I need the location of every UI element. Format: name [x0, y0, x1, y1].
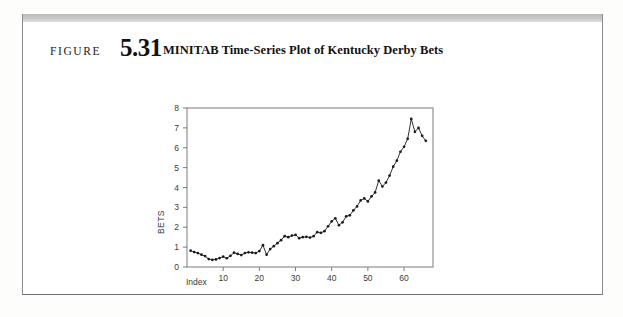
time-series-chart: BETS Index 012345678 102030405060: [23, 74, 602, 289]
svg-text:2: 2: [174, 222, 179, 232]
svg-text:0: 0: [174, 262, 179, 272]
svg-text:20: 20: [255, 273, 265, 283]
page-background: FIGURE 5.31 MINITAB Time-Series Plot of …: [0, 0, 623, 317]
svg-text:4: 4: [174, 183, 179, 193]
figure-title: MINITAB Time-Series Plot of Kentucky Der…: [163, 43, 443, 58]
plot-svg: 012345678 102030405060: [23, 74, 604, 289]
svg-text:1: 1: [174, 242, 179, 252]
figure-label: FIGURE: [50, 45, 101, 57]
svg-text:30: 30: [291, 273, 301, 283]
svg-text:7: 7: [174, 123, 179, 133]
header-band: [23, 14, 602, 22]
svg-text:3: 3: [174, 202, 179, 212]
y-axis-ticks: 012345678: [174, 103, 187, 272]
figure-header: FIGURE 5.31 MINITAB Time-Series Plot of …: [23, 36, 602, 68]
svg-text:5: 5: [174, 163, 179, 173]
figure-number: 5.31: [120, 34, 162, 62]
svg-text:10: 10: [218, 273, 228, 283]
svg-text:40: 40: [327, 273, 337, 283]
svg-text:6: 6: [174, 143, 179, 153]
x-axis-ticks: 102030405060: [218, 267, 409, 283]
svg-text:50: 50: [363, 273, 373, 283]
svg-text:8: 8: [174, 103, 179, 113]
svg-text:60: 60: [399, 273, 409, 283]
plot-frame: [187, 108, 433, 267]
figure-card: FIGURE 5.31 MINITAB Time-Series Plot of …: [22, 14, 603, 295]
